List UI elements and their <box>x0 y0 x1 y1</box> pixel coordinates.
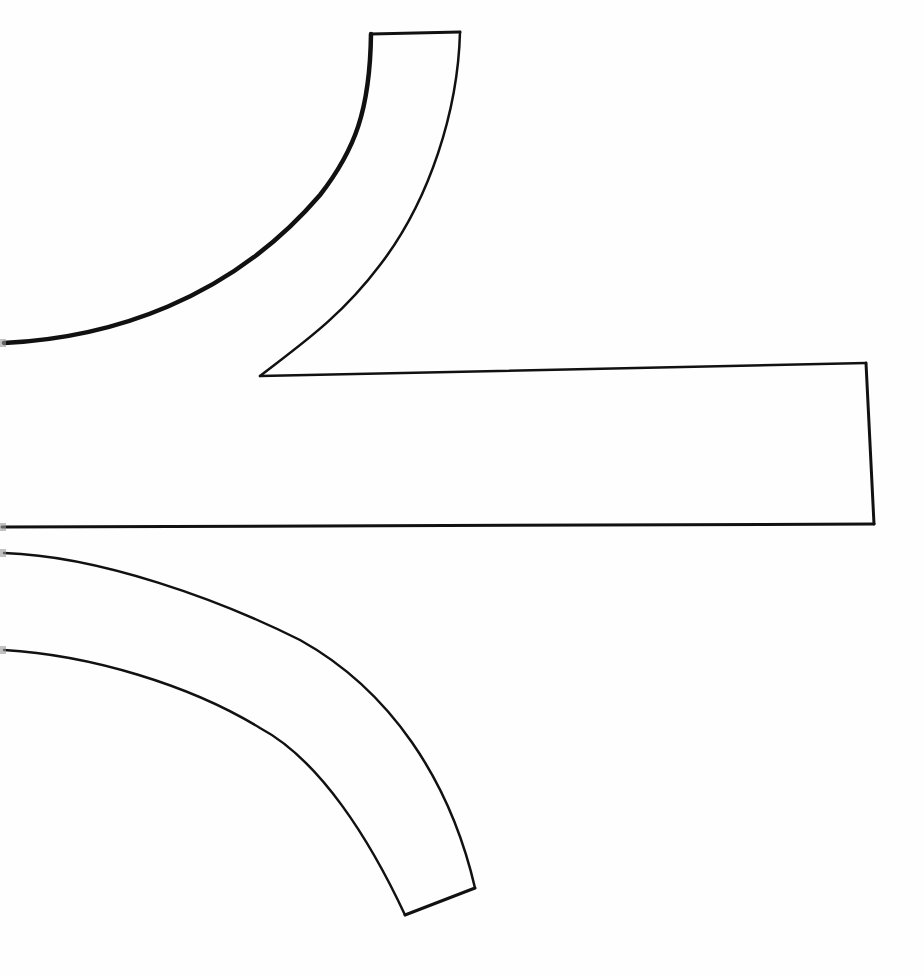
bar-right-edge <box>866 363 874 524</box>
bar-bottom-edge <box>2 524 874 527</box>
lower-curved-arm <box>4 553 475 915</box>
drawing-canvas <box>0 0 924 975</box>
lower-arm-upper-curve <box>4 553 475 888</box>
upper-curved-arm <box>4 32 460 376</box>
edge-mark <box>0 646 6 654</box>
edge-marks <box>0 339 6 654</box>
bar-top-edge <box>260 363 866 376</box>
edge-mark <box>0 339 6 347</box>
edge-mark <box>0 549 6 557</box>
horizontal-bar <box>2 363 874 527</box>
line-drawing <box>0 0 924 975</box>
lower-arm-lower-curve <box>4 650 405 915</box>
upper-arm-top-cap <box>371 32 460 34</box>
upper-arm-inner-curve <box>4 34 371 343</box>
edge-mark <box>0 523 6 531</box>
upper-arm-outer-curve <box>260 32 460 376</box>
lower-arm-bottom-cap <box>405 888 475 915</box>
